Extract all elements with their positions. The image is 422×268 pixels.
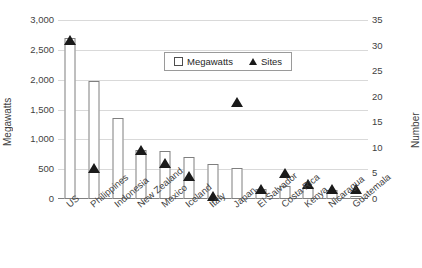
category-slot (106, 20, 130, 199)
geothermal-capacity-chart: Megawatts Number 05001,0001,5002,0002,50… (0, 0, 422, 268)
category-slot (296, 20, 320, 199)
y-axis-left-tick: 2,500 (30, 45, 54, 54)
category-slot (320, 20, 344, 199)
legend-item-sites[interactable]: Sites (249, 56, 282, 67)
x-axis-label: US (64, 201, 71, 209)
marker-sites[interactable] (88, 163, 100, 173)
y-axis-right-tick: 25 (372, 66, 383, 75)
y-axis-right-tick: 15 (372, 117, 383, 126)
bar-megawatts[interactable] (64, 38, 75, 199)
y-axis-left-tick: 500 (38, 164, 54, 173)
y-axis-left-tick: 2,000 (30, 75, 54, 84)
y-axis-left-ticks: 05001,0001,5002,0002,5003,000 (20, 0, 54, 268)
y-axis-right-tick: 35 (372, 15, 383, 24)
category-slot (201, 20, 225, 199)
y-axis-right-title: Number (410, 85, 421, 175)
y-axis-right-ticks: 05101520253035 (372, 0, 406, 268)
legend-label-sites: Sites (261, 56, 282, 67)
x-axis-label: Nicaragua (326, 201, 333, 209)
legend-label-megawatts: Megawatts (187, 56, 233, 67)
category-slot (58, 20, 82, 199)
category-slot (130, 20, 154, 199)
y-axis-right-tick: 30 (372, 41, 383, 50)
y-axis-left-tick: 3,000 (30, 15, 54, 24)
marker-sites[interactable] (231, 97, 243, 107)
x-axis-label: Indonesia (112, 201, 119, 209)
x-axis-label: Kenya (302, 201, 309, 209)
category-slot (225, 20, 249, 199)
x-axis-label: Mexico (159, 201, 166, 209)
marker-sites[interactable] (159, 158, 171, 168)
open-square-icon (174, 57, 183, 66)
category-slot (344, 20, 368, 199)
legend-item-megawatts[interactable]: Megawatts (174, 56, 233, 67)
y-axis-left-tick: 1,000 (30, 134, 54, 143)
x-axis-label: Japan (231, 201, 238, 209)
x-axis-label: New Zealand (135, 201, 142, 209)
y-axis-right-tick: 20 (372, 92, 383, 101)
y-axis-left-tick: 1,500 (30, 105, 54, 114)
category-slot (82, 20, 106, 199)
y-axis-right-tick: 10 (372, 143, 383, 152)
x-axis-label: El Salvador (255, 201, 262, 209)
chart-legend[interactable]: Megawatts Sites (164, 52, 292, 71)
bar-megawatts[interactable] (88, 81, 99, 199)
x-axis-label: Iceland (183, 201, 190, 209)
y-axis-left-title: Megawatts (2, 62, 13, 182)
x-axis-category-labels: USPhilippinesIndonesiaNew ZealandMexicoI… (58, 201, 368, 267)
y-axis-right-tick: 5 (372, 168, 377, 177)
filled-triangle-icon (249, 58, 257, 65)
x-axis-label: Costa Rica (279, 201, 286, 209)
y-axis-left-tick: 0 (49, 194, 54, 203)
marker-sites[interactable] (135, 145, 147, 155)
series-layer (58, 20, 368, 199)
plot-area (58, 20, 368, 199)
x-axis-label: Italy (207, 201, 214, 209)
category-slot (249, 20, 273, 199)
x-axis-label: Guatemala (350, 201, 357, 209)
x-axis-label: Philippines (88, 201, 95, 209)
marker-sites[interactable] (64, 35, 76, 45)
